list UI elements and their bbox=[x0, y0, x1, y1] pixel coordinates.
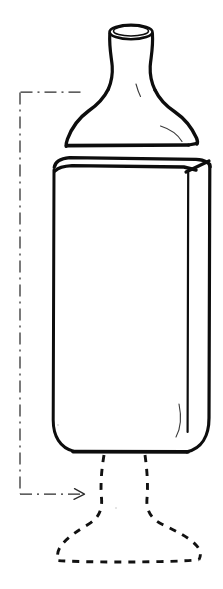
bottle-neck-group bbox=[108, 34, 155, 91]
bottle-shoulder-ledge bbox=[66, 145, 188, 146]
bottle-shoulder-right-bevel bbox=[189, 143, 198, 145]
phantom-pedestal-foot-group bbox=[58, 455, 201, 562]
bottle-shoulder-group bbox=[66, 84, 197, 146]
bottle-lip-outer-ellipse bbox=[110, 25, 153, 39]
bottle-line-drawing bbox=[0, 0, 223, 589]
bottle-body-bottom-right-highlight bbox=[176, 404, 180, 437]
bottle-body-group bbox=[53, 158, 210, 509]
bottle-body-right-wall bbox=[187, 164, 210, 452]
phantom-foot-left-profile bbox=[58, 455, 104, 561]
bottle-shoulder-highlight-curve bbox=[161, 126, 183, 142]
phantom-foot-right-profile bbox=[145, 455, 200, 560]
bottle-shoulder-left-flare bbox=[66, 89, 108, 146]
bottle-neck-right-wall bbox=[150, 34, 155, 91]
figure-canvas bbox=[0, 0, 223, 589]
bottle-body-left-wall bbox=[53, 170, 74, 451]
bottle-neck-seam-hint bbox=[136, 84, 141, 97]
bottle-shoulder-right-flare bbox=[155, 90, 197, 144]
print-speck-center bbox=[115, 507, 117, 509]
bottle-neck-left-wall bbox=[108, 34, 112, 90]
bottle-lip-group bbox=[110, 25, 153, 39]
bottle-body-inner-corner-line bbox=[188, 173, 189, 433]
print-speck-left bbox=[57, 424, 59, 426]
bottle-lip-inner-ellipse bbox=[114, 26, 149, 36]
bottle-body-top-front-edge bbox=[55, 166, 196, 171]
phantom-foot-bottom-edge bbox=[58, 560, 199, 562]
